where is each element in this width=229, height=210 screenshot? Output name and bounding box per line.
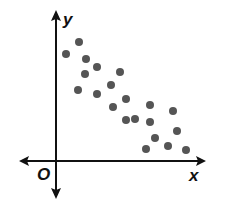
data-point — [75, 38, 83, 46]
data-point — [142, 145, 150, 153]
data-point — [93, 63, 101, 71]
data-points — [62, 38, 190, 154]
data-point — [81, 70, 89, 78]
data-point — [122, 95, 130, 103]
data-point — [146, 118, 154, 126]
data-point — [62, 50, 70, 58]
origin-label: O — [37, 165, 50, 184]
data-point — [173, 127, 181, 135]
data-point — [169, 107, 177, 115]
data-point — [146, 101, 154, 109]
data-point — [82, 55, 90, 63]
data-point — [74, 86, 82, 94]
data-point — [151, 134, 159, 142]
data-point — [131, 115, 139, 123]
data-point — [93, 90, 101, 98]
x-axis-label: x — [188, 166, 200, 185]
data-point — [122, 116, 130, 124]
y-axis-label: y — [62, 10, 74, 29]
data-point — [182, 146, 190, 154]
data-point — [116, 68, 124, 76]
scatter-plot: y x O — [0, 0, 229, 210]
data-point — [109, 103, 117, 111]
data-point — [107, 81, 115, 89]
data-point — [164, 142, 172, 150]
